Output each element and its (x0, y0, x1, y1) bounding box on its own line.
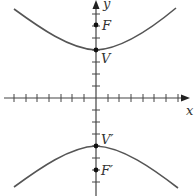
y-axis-label: y (103, 0, 110, 10)
focus-f-prime-label: F′ (101, 164, 113, 177)
hyperbola-plot (0, 0, 194, 196)
vertex-v-point (94, 48, 99, 53)
vertex-v-prime-point (94, 144, 99, 149)
vertex-v-label: V (101, 52, 110, 65)
focus-f-point (94, 23, 99, 28)
x-axis-label: x (186, 104, 193, 117)
x-axis-arrow-icon (181, 95, 190, 102)
y-axis-arrow-icon (93, 0, 100, 9)
focus-f-prime-point (94, 168, 99, 173)
vertex-v-prime-label: V′ (101, 133, 113, 146)
focus-f-label: F (102, 19, 111, 32)
hyperbola-diagram: y x F V V′ F′ (0, 0, 194, 196)
